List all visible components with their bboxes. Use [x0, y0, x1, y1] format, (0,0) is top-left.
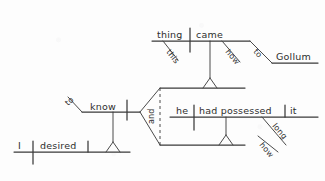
lower-subordinate-clause-group: he had possessed it long how	[170, 105, 318, 160]
upper-support-triangle-left	[203, 78, 210, 88]
word-gollum: Gollum	[276, 51, 311, 62]
word-had-possessed: had possessed	[199, 105, 272, 116]
support-triangle-left-main	[106, 142, 113, 152]
sentence-diagram-canvas: I desired to know and	[0, 0, 325, 181]
infinitive-phrase-group: to know	[63, 95, 140, 120]
conjunction-group: and	[140, 88, 160, 145]
word-how-lower: how	[257, 141, 275, 160]
word-know: know	[90, 101, 116, 112]
lower-support-triangle-left	[219, 135, 226, 145]
word-it: it	[290, 105, 297, 116]
word-i: I	[18, 140, 21, 151]
word-and: and	[147, 108, 156, 124]
word-thing: thing	[157, 29, 182, 40]
lower-clause-connector	[160, 117, 245, 145]
word-came: came	[196, 29, 223, 40]
infinitive-support-main	[106, 112, 120, 152]
word-to-infinitive: to	[63, 95, 75, 107]
word-desired: desired	[40, 140, 76, 151]
main-clause-group: I desired	[14, 140, 130, 164]
support-triangle-right-main	[113, 142, 120, 152]
word-this: this	[164, 48, 181, 66]
upper-subordinate-clause-group: thing came this how to Gollum	[152, 28, 318, 67]
upper-support-triangle-right	[210, 78, 217, 88]
word-to-preposition: to	[252, 47, 264, 59]
word-he: he	[176, 105, 188, 116]
lower-support-triangle-right	[226, 135, 233, 145]
sentence-diagram-page: I desired to know and	[0, 0, 325, 181]
word-long: long	[270, 122, 289, 142]
word-how-upper: how	[223, 48, 241, 67]
